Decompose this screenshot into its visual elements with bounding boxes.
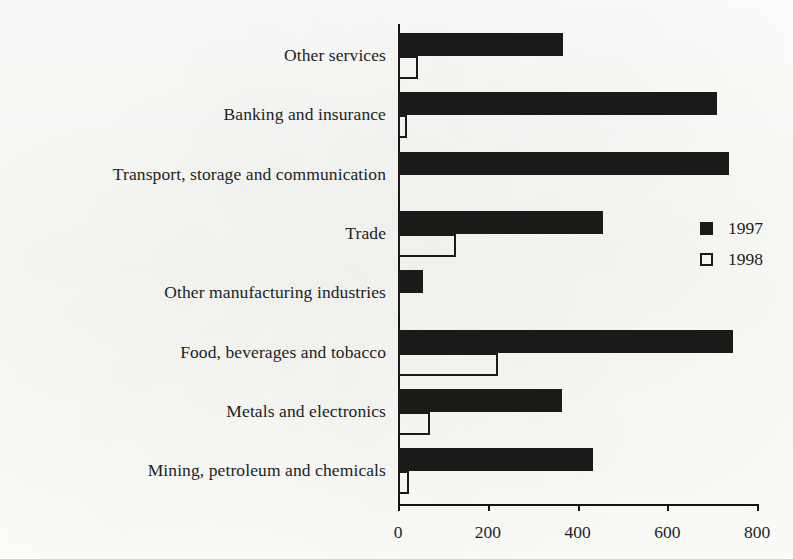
bar-1998-4	[398, 234, 456, 257]
category-label-2: Banking and insurance	[224, 106, 386, 124]
legend-label-1998: 1998	[728, 251, 763, 269]
x-tick-label-600: 600	[654, 524, 680, 542]
hollow-square-icon	[700, 253, 713, 266]
bar-1997-8	[398, 448, 593, 471]
x-tick-label-400: 400	[564, 524, 590, 542]
filled-square-icon	[700, 222, 713, 235]
legend: 19971998	[700, 220, 790, 270]
x-tick-400	[578, 504, 580, 511]
legend-entry-1997: 1997	[700, 220, 763, 238]
bar-1998-8	[398, 471, 409, 494]
x-tick-200	[488, 504, 490, 511]
legend-label-1997: 1997	[728, 220, 763, 238]
x-tick-0	[398, 500, 400, 511]
category-label-4: Trade	[345, 225, 386, 243]
category-label-6: Food, beverages and tobacco	[180, 344, 386, 362]
legend-entry-1998: 1998	[700, 251, 763, 269]
bar-1998-6	[398, 353, 498, 376]
category-label-8: Mining, petroleum and chemicals	[148, 462, 386, 480]
x-tick-label-200: 200	[475, 524, 501, 542]
x-tick-600	[667, 504, 669, 511]
category-label-3: Transport, storage and communication	[113, 166, 386, 184]
bar-1997-3	[398, 152, 729, 175]
bar-1997-4	[398, 211, 603, 234]
bar-1998-5	[398, 293, 400, 316]
category-label-5: Other manufacturing industries	[164, 284, 386, 302]
bar-1997-2	[398, 92, 717, 115]
bar-1998-1	[398, 56, 418, 79]
category-label-7: Metals and electronics	[226, 403, 386, 421]
bar-1997-5	[398, 270, 423, 293]
horizontal-grouped-bar-chart: Other servicesBanking and insuranceTrans…	[0, 0, 793, 559]
bar-1997-1	[398, 33, 563, 56]
bar-1997-6	[398, 330, 733, 353]
bar-1997-7	[398, 389, 562, 412]
bar-1998-7	[398, 412, 430, 435]
bar-1998-3	[398, 175, 400, 198]
bar-1998-2	[398, 115, 407, 138]
x-tick-label-0: 0	[394, 524, 403, 542]
category-label-1: Other services	[284, 47, 386, 65]
x-tick-800	[757, 504, 759, 511]
x-tick-label-800: 800	[744, 524, 770, 542]
